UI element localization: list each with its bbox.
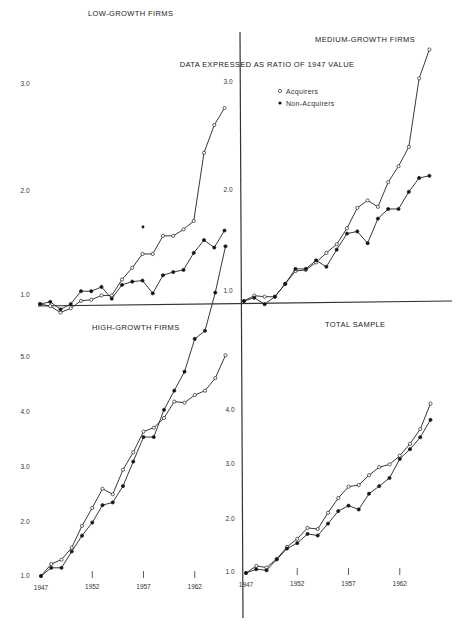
filled-circle-marker	[38, 302, 41, 305]
open-circle-marker	[388, 463, 391, 466]
filled-circle-marker	[142, 435, 145, 438]
x-tick-label: 1952	[85, 583, 100, 590]
open-circle-marker	[132, 451, 135, 454]
filled-circle-marker	[91, 521, 94, 524]
open-circle-marker	[142, 430, 145, 433]
panel-title-high: HIGH-GROWTH FIRMS	[92, 323, 180, 332]
x-tick-label: 1962	[393, 580, 408, 587]
filled-circle-marker	[39, 574, 42, 577]
y-tick-label: 2.0	[20, 187, 29, 194]
filled-circle-marker	[50, 566, 53, 569]
open-circle-marker	[419, 428, 422, 431]
filled-circle-marker	[285, 547, 288, 550]
filled-circle-marker	[388, 476, 391, 479]
filled-circle-marker	[223, 229, 226, 232]
filled-circle-marker	[398, 457, 401, 460]
filled-circle-marker	[378, 485, 381, 488]
y-tick-label: 5.0	[20, 353, 29, 360]
filled-circle-marker	[325, 265, 328, 268]
filled-circle-marker	[101, 504, 104, 507]
open-circle-marker	[367, 474, 370, 477]
open-circle-marker	[121, 468, 124, 471]
filled-circle-marker	[79, 290, 82, 293]
panel-title-low: LOW-GROWTH FIRMS	[88, 9, 173, 18]
open-circle-marker	[69, 307, 72, 310]
filled-circle-marker	[100, 285, 103, 288]
open-circle-marker	[152, 426, 155, 429]
open-circle-marker	[223, 106, 226, 109]
open-circle-marker	[183, 401, 186, 404]
filled-circle-marker	[273, 295, 276, 298]
open-circle-marker	[203, 389, 206, 392]
open-circle-marker	[193, 393, 196, 396]
y-tick-label: 3.0	[20, 80, 29, 87]
series-line-non-acquirers	[41, 246, 226, 576]
open-circle-marker	[60, 558, 63, 561]
panel-title-medium: MEDIUM-GROWTH FIRMS	[315, 35, 415, 44]
open-circle-marker	[356, 206, 359, 209]
filled-circle-marker	[326, 522, 329, 525]
filled-circle-marker	[366, 242, 369, 245]
filled-circle-marker	[304, 267, 307, 270]
filled-circle-marker	[203, 329, 206, 332]
open-circle-marker	[91, 506, 94, 509]
filled-circle-marker	[192, 251, 195, 254]
filled-circle-marker	[161, 274, 164, 277]
filled-circle-marker	[141, 279, 144, 282]
filled-circle-marker	[121, 484, 124, 487]
y-tick-label: 4.0	[20, 408, 29, 415]
y-tick-label: 3.0	[223, 78, 232, 85]
filled-circle-marker	[182, 268, 185, 271]
y-tick-label: 1.0	[223, 287, 232, 294]
filled-circle-marker	[193, 337, 196, 340]
filled-circle-marker	[263, 303, 266, 306]
filled-circle-marker	[335, 248, 338, 251]
open-circle-marker	[326, 511, 329, 514]
y-tick-label: 1.0	[20, 572, 29, 579]
open-circle-marker	[325, 251, 328, 254]
y-tick-label: 3.0	[20, 463, 29, 470]
filled-circle-marker	[70, 550, 73, 553]
open-circle-marker	[255, 564, 258, 567]
filled-circle-marker	[296, 542, 299, 545]
filled-circle-marker	[152, 435, 155, 438]
x-tick-label: 1962	[188, 583, 203, 590]
four-panel-line-chart: LOW-GROWTH FIRMS1.02.03.0MEDIUM-GROWTH F…	[0, 0, 473, 624]
x-tick-label: 1957	[341, 580, 356, 587]
filled-circle-marker	[337, 509, 340, 512]
x-tick-label: 1957	[136, 583, 151, 590]
open-circle-marker	[347, 485, 350, 488]
filled-circle-marker	[407, 190, 410, 193]
x-tick-label: 1947	[239, 581, 254, 588]
open-circle-marker	[418, 77, 421, 80]
legend: AcquirersNon-Acquirers	[278, 88, 334, 108]
filled-circle-marker	[132, 460, 135, 463]
open-circle-marker	[120, 278, 123, 281]
series-line-non-acquirers	[40, 231, 225, 310]
open-circle-marker	[408, 442, 411, 445]
open-circle-marker	[378, 466, 381, 469]
open-circle-marker	[345, 227, 348, 230]
filled-circle-marker	[242, 299, 245, 302]
filled-circle-marker	[244, 571, 247, 574]
open-circle-marker	[306, 526, 309, 529]
filled-circle-marker	[151, 292, 154, 295]
filled-circle-marker	[162, 408, 165, 411]
open-circle-marker	[80, 524, 83, 527]
series-line-acquirers	[41, 355, 226, 576]
y-tick-label: 4.0	[225, 406, 234, 413]
open-circle-marker	[141, 252, 144, 255]
series-line-acquirers	[244, 50, 429, 301]
filled-circle-marker	[213, 246, 216, 249]
filled-circle-marker	[265, 569, 268, 572]
filled-circle-marker	[347, 504, 350, 507]
open-circle-marker	[366, 199, 369, 202]
open-circle-marker	[263, 295, 266, 298]
open-circle-marker	[161, 234, 164, 237]
filled-circle-marker	[59, 308, 62, 311]
filled-circle-marker	[111, 501, 114, 504]
filled-circle-marker	[408, 448, 411, 451]
filled-circle-marker	[214, 291, 217, 294]
open-circle-marker	[70, 546, 73, 549]
x-tick-label: 1947	[34, 584, 49, 591]
